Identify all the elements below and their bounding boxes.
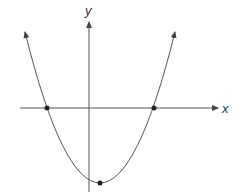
x-axis-label: x (221, 101, 229, 116)
left-intercept-point (45, 106, 50, 111)
y-axis-label: y (84, 3, 93, 18)
parabola-graph: y x (0, 0, 239, 192)
vertex-point (98, 181, 103, 186)
right-intercept-point (152, 106, 157, 111)
